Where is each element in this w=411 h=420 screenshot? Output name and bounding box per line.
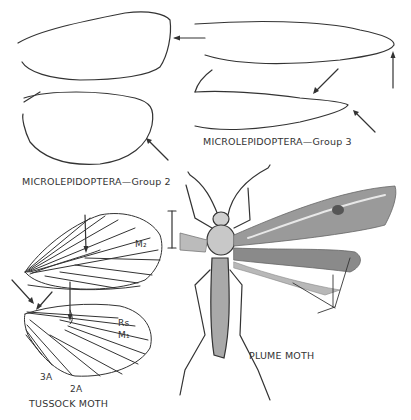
group3-hindwing bbox=[195, 70, 348, 129]
group3-forewing bbox=[195, 22, 394, 64]
vein-label-rs: Rs bbox=[118, 318, 129, 328]
tussock-forewing bbox=[25, 214, 162, 290]
group3-arrows bbox=[313, 51, 396, 132]
plume-moth-drawing bbox=[168, 165, 396, 400]
wing-diagram-drawing bbox=[0, 0, 411, 420]
group2-forewing bbox=[18, 12, 171, 80]
caption-microlepidoptera-group-2: MICROLEPIDOPTERA—Group 2 bbox=[22, 176, 171, 187]
caption-plume-moth: PLUME MOTH bbox=[249, 350, 314, 361]
caption-tussock-moth: TUSSOCK MOTH bbox=[29, 398, 108, 409]
vein-label-m1: M₁ bbox=[118, 330, 130, 340]
tussock-hindwing bbox=[24, 304, 151, 376]
vein-label-3a: 3A bbox=[40, 372, 52, 382]
caption-microlepidoptera-group-3: MICROLEPIDOPTERA—Group 3 bbox=[203, 136, 352, 147]
group2-hindwing bbox=[23, 92, 153, 164]
vein-label-m2: M₂ bbox=[135, 239, 147, 249]
vein-label-2a: 2A bbox=[70, 384, 82, 394]
group2-arrows bbox=[146, 36, 205, 161]
